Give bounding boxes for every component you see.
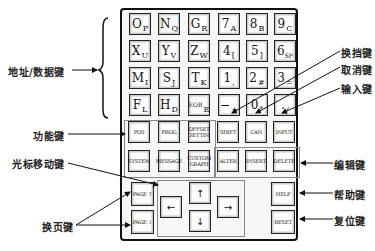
edit-keys-label: 编辑键 xyxy=(334,157,366,172)
cancel-key-label: 取消键 xyxy=(341,62,373,77)
input-key-label: 输入键 xyxy=(341,81,373,96)
reset-key-label: 复位键 xyxy=(334,213,366,228)
page-keys-label: 换页键 xyxy=(42,219,74,234)
help-key-label: 帮助键 xyxy=(334,187,366,202)
shift-key-label: 换挡键 xyxy=(341,45,373,60)
leader-lines xyxy=(0,0,375,251)
address-data-keys-label: 地址/数据键 xyxy=(8,64,65,79)
function-keys-label: 功能键 xyxy=(33,128,65,143)
cursor-keys-label: 光标移动键 xyxy=(12,156,65,171)
